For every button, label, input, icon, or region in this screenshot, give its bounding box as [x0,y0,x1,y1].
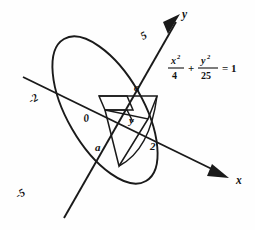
equation-plus-sign: + [188,62,194,74]
diagram-canvas: y x 0 5 -2 -5 2 a a y x 2 4 + y 2 [0,0,255,230]
equation-y-exponent: 2 [206,53,211,60]
y-axis-label: y [180,8,188,21]
label-a-lower: a [95,141,101,153]
equation-x-denominator: 4 [172,70,177,81]
equation-x-numerator: x [170,55,176,66]
origin-label: 0 [83,111,91,124]
equation-equals-one: = 1 [222,62,237,74]
y-axis [64,14,180,218]
ellipse-diagram: y x 0 5 -2 -5 2 a a y x 2 4 + y 2 [0,0,255,230]
x-axis-label: x [235,174,242,186]
label-a-upper: a [134,81,140,93]
tick-label-minus-2: -2 [26,91,40,106]
x-axis [23,77,229,178]
equation-y-denominator: 25 [201,70,211,81]
tick-label-5: 5 [138,28,149,41]
tick-label-minus-5: -5 [13,186,27,201]
x-axis-arrowhead [207,164,229,178]
equation-x-exponent: 2 [176,53,181,60]
equation-y-numerator: y [200,55,206,66]
tick-label-2: 2 [149,140,156,152]
label-y-segment: y [127,114,134,126]
ellipse-equation: x 2 4 + y 2 25 = 1 [168,53,237,81]
